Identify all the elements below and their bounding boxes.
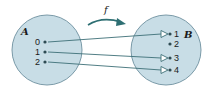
set-b-element-2: 2 [174, 39, 179, 49]
set-b-label: B [183, 29, 192, 40]
set-a-dot-1 [43, 50, 46, 53]
set-b-circle [131, 15, 201, 85]
set-b-dot-2 [168, 42, 171, 45]
set-b-element-3: 3 [174, 53, 179, 63]
set-a-element-1: 1 [35, 47, 40, 57]
set-a-element-0: 0 [35, 37, 40, 47]
set-b-element-1: 1 [174, 29, 179, 39]
set-a-label: A [20, 26, 29, 37]
set-a-element-2: 2 [35, 57, 40, 67]
set-a-dot-0 [43, 40, 46, 43]
function-label: f [103, 4, 110, 15]
set-a-dot-2 [43, 60, 46, 63]
set-b-element-4: 4 [174, 65, 179, 75]
function-mapping-diagram: f A 0 1 2 B 1 2 3 4 [0, 0, 212, 88]
function-arrow [88, 18, 126, 26]
